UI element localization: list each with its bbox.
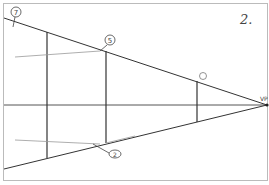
faint-guide-bottom-right [106, 136, 135, 143]
label-7-text: 7 [14, 9, 18, 17]
vp-label: VP [260, 95, 268, 102]
label-1-circle [200, 73, 207, 80]
faint-guide-top [15, 51, 100, 57]
bottom-orthogonal-line [4, 105, 267, 169]
perspective-diagram: 7 5 2 VP 2. [0, 0, 269, 185]
label-5-pointer-icon [100, 45, 107, 51]
figure-number: 2. [240, 12, 252, 27]
vanishing-point-dot [265, 103, 268, 106]
faint-guide-bottom [15, 140, 100, 144]
label-2-text: 2 [113, 151, 117, 158]
top-orthogonal-line [4, 18, 267, 105]
label-5-text: 5 [108, 37, 112, 45]
